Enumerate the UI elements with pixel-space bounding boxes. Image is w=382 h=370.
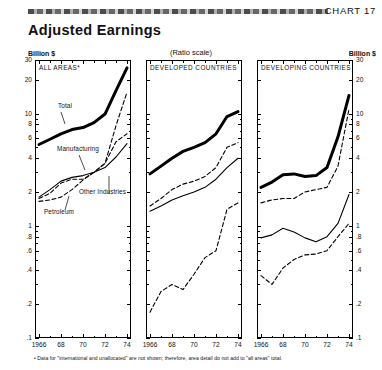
y-axis-tick — [351, 260, 354, 261]
y-axis-tick — [349, 338, 353, 339]
x-axis-tick — [83, 60, 84, 64]
x-axis-tick — [183, 336, 184, 339]
x-axis-tick — [216, 60, 217, 64]
y-axis-tick — [127, 338, 131, 339]
x-axis-tick — [183, 60, 184, 63]
x-axis-tick — [194, 60, 195, 64]
x-axis-label: 68 — [57, 341, 64, 348]
x-axis-label: 68 — [279, 341, 286, 348]
y-axis-tick — [127, 60, 131, 61]
y-axis-tick — [35, 147, 38, 148]
annotation-other-industries: Other Industries — [79, 188, 126, 195]
y-axis-tick — [127, 251, 131, 252]
x-axis-tick — [72, 60, 73, 63]
y-axis-tick — [240, 284, 243, 285]
x-axis-tick — [227, 60, 228, 63]
y-axis-tick — [146, 243, 149, 244]
y-axis-label: .6 — [27, 247, 33, 254]
series-line-total — [150, 112, 238, 174]
y-axis-label: 10 — [356, 110, 363, 117]
y-axis-label: .2 — [27, 300, 33, 307]
y-axis-tick — [351, 284, 354, 285]
y-axis-tick — [35, 284, 38, 285]
y-axis-label: .8 — [27, 233, 33, 240]
y-axis-tick — [129, 131, 132, 132]
y-axis-tick — [257, 119, 260, 120]
y-axis-tick — [238, 251, 242, 252]
y-axis-label: 20 — [25, 76, 32, 83]
x-axis-tick — [205, 60, 206, 63]
y-axis-tick — [146, 338, 150, 339]
series-line-petroleum — [150, 203, 238, 312]
panel-title: ALL AREAS* — [39, 64, 80, 71]
y-axis-tick — [35, 226, 39, 227]
chart-number: CHART 17 — [325, 5, 376, 16]
y-axis-tick — [238, 138, 242, 139]
annotation-manufacturing: Manufacturing — [57, 145, 99, 152]
page-title: Adjusted Earnings — [28, 22, 161, 38]
annotation-petroleum: Petroleum — [44, 208, 74, 215]
x-axis-tick — [316, 336, 317, 339]
x-axis-tick — [172, 334, 173, 338]
y-axis-label: 6 — [356, 134, 360, 141]
y-axis-label: 30 — [25, 56, 32, 63]
x-axis-tick — [72, 336, 73, 339]
y-axis-label: 2 — [356, 188, 360, 195]
y-axis-tick — [351, 119, 354, 120]
series-line-total — [261, 95, 349, 187]
y-axis-tick — [146, 192, 150, 193]
y-axis-tick — [129, 243, 132, 244]
x-axis-tick — [61, 60, 62, 64]
x-axis-tick — [61, 334, 62, 338]
y-axis-label: .1 — [27, 334, 33, 341]
x-axis-label: 72 — [101, 341, 108, 348]
x-axis-tick — [94, 336, 95, 339]
y-axis-tick — [238, 80, 242, 81]
y-axis-label: 8 — [28, 120, 32, 127]
x-axis-tick — [83, 334, 84, 338]
y-axis-tick — [240, 131, 243, 132]
x-axis-tick — [94, 60, 95, 63]
y-axis-tick — [35, 131, 38, 132]
x-axis-tick — [161, 336, 162, 339]
x-axis-tick — [39, 334, 40, 338]
y-axis-tick — [257, 80, 261, 81]
y-axis-tick — [35, 260, 38, 261]
series-line-other-industries — [261, 194, 349, 241]
y-axis-tick — [257, 338, 261, 339]
y-axis-tick — [257, 124, 261, 125]
y-axis-tick — [240, 260, 243, 261]
y-axis-tick — [257, 114, 261, 115]
x-axis-tick — [305, 60, 306, 64]
x-axis-tick — [349, 60, 350, 64]
y-axis-tick — [35, 124, 39, 125]
x-axis-tick — [227, 336, 228, 339]
y-axis-label: 4 — [28, 154, 32, 161]
y-axis-tick — [35, 114, 39, 115]
x-axis-label: 70 — [79, 341, 86, 348]
y-axis-tick — [146, 237, 150, 238]
chart-page: CHART 17 Adjusted Earnings (Ratio scale)… — [0, 0, 382, 370]
y-axis-tick — [349, 251, 353, 252]
x-axis-tick — [294, 336, 295, 339]
y-axis-tick — [257, 158, 261, 159]
plot-area — [257, 60, 353, 338]
y-axis-tick — [349, 114, 353, 115]
y-axis-tick — [127, 237, 131, 238]
x-axis-label: 74 — [234, 341, 241, 348]
y-axis-label: .8 — [356, 233, 362, 240]
x-axis-tick — [338, 60, 339, 63]
y-axis-tick — [257, 260, 260, 261]
y-axis-label: 8 — [356, 120, 360, 127]
series-line-manufacturing — [261, 223, 349, 284]
y-axis-tick — [146, 226, 150, 227]
x-axis-label: 70 — [190, 341, 197, 348]
plot-area — [146, 60, 242, 338]
y-axis-label: 4 — [356, 154, 360, 161]
x-axis-label: 70 — [301, 341, 308, 348]
y-axis-tick — [351, 243, 354, 244]
y-axis-tick — [35, 172, 38, 173]
y-axis-tick — [240, 231, 243, 232]
x-axis-tick — [349, 334, 350, 338]
y-axis-tick — [146, 138, 150, 139]
